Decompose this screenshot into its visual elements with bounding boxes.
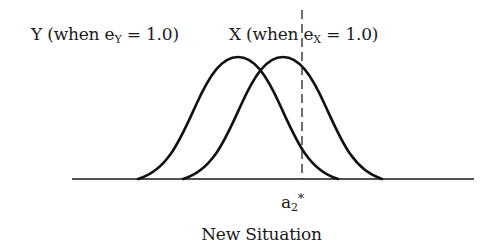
x-curve-label: X (when eX = 1.0) — [229, 26, 378, 43]
y-label-prefix: Y (when e — [31, 24, 114, 44]
threshold-label-superscript: * — [298, 191, 304, 206]
y-label-suffix: = 1.0) — [122, 24, 179, 44]
distribution-diagram: Y (when eY = 1.0) X (when eX = 1.0) a2* … — [0, 0, 485, 242]
x-label-suffix: = 1.0) — [321, 24, 378, 44]
x-label-prefix: X (when e — [229, 24, 313, 44]
y-curve-label: Y (when eY = 1.0) — [31, 26, 179, 43]
diagram-caption: New Situation — [0, 226, 485, 242]
y-label-subscript: Y — [114, 33, 121, 46]
x-label-subscript: X — [313, 33, 321, 46]
threshold-label: a2* — [281, 194, 304, 211]
threshold-label-base: a — [281, 192, 291, 212]
threshold-label-subscript: 2 — [291, 201, 298, 214]
